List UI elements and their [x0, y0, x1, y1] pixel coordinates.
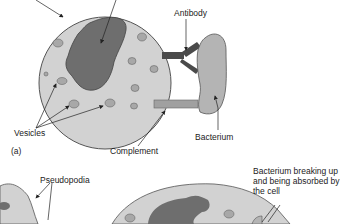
label-complement: Complement: [110, 146, 158, 156]
label-panel-a: (a): [11, 146, 21, 156]
label-bacterium: Bacterium: [195, 132, 233, 142]
label-bacterium-breaking: Bacterium breaking up and being absorbed…: [253, 166, 344, 196]
label-pseudopodia: Pseudopodia: [40, 175, 90, 185]
complement: [154, 100, 198, 108]
label-antibody: Antibody: [174, 8, 207, 18]
phagocyte-cell-b: [0, 184, 38, 224]
label-vesicles: Vesicles: [14, 128, 45, 138]
bacterium: [197, 34, 226, 114]
